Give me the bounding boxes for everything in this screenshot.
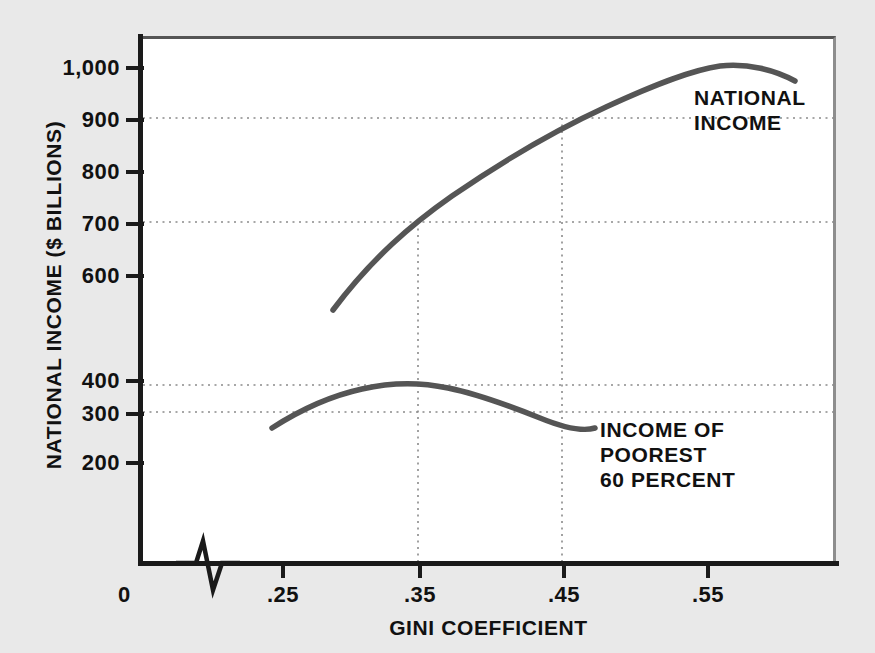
y-axis-title: NATIONAL INCOME ($ BILLIONS) — [42, 35, 66, 555]
series-label-national-income: NATIONAL INCOME — [694, 86, 806, 136]
x-tick-label-035: .35 — [375, 582, 465, 608]
y-axis-line — [138, 34, 143, 566]
y-tick-label-200: 200 — [82, 450, 120, 476]
x-axis-title: GINI COEFFICIENT — [141, 616, 836, 640]
y-tick-label-800: 800 — [82, 159, 120, 185]
x-axis-origin-label: 0 — [118, 582, 130, 608]
y-tick-mark-400 — [126, 379, 144, 383]
y-tick-label-1000: 1,000 — [62, 55, 120, 81]
y-tick-mark-1000 — [126, 66, 144, 70]
y-tick-mark-700 — [126, 222, 144, 226]
x-tick-label-045: .45 — [519, 582, 609, 608]
x-tick-mark-055 — [706, 561, 710, 578]
y-tick-label-400: 400 — [82, 368, 120, 394]
x-tick-label-055: .55 — [663, 582, 753, 608]
y-tick-label-300: 300 — [82, 401, 120, 427]
x-tick-mark-035 — [418, 561, 422, 578]
y-tick-mark-300 — [126, 412, 144, 416]
y-tick-mark-800 — [126, 170, 144, 174]
y-tick-label-600: 600 — [82, 263, 120, 289]
x-tick-label-025: .25 — [238, 582, 328, 608]
x-tick-mark-045 — [562, 561, 566, 578]
x-tick-mark-025 — [281, 561, 285, 578]
y-tick-mark-900 — [126, 118, 144, 122]
x-axis-line — [141, 561, 839, 566]
y-tick-label-900: 900 — [82, 107, 120, 133]
chart-figure: 1,000 900 800 700 600 400 300 200 .25 .3… — [0, 0, 875, 653]
series-label-poorest-60: INCOME OF POOREST 60 PERCENT — [600, 418, 736, 492]
y-tick-mark-600 — [126, 274, 144, 278]
y-tick-mark-200 — [126, 461, 144, 465]
y-tick-label-700: 700 — [82, 211, 120, 237]
